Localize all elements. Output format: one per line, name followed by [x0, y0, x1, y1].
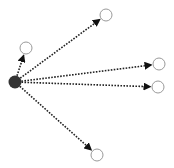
edge-source-to-t1	[17, 55, 24, 76]
source-node	[9, 76, 22, 89]
edges-group	[17, 19, 152, 150]
edge-source-to-t5	[20, 86, 92, 150]
target-node-t2	[100, 9, 112, 21]
star-diagram	[0, 0, 174, 168]
target-node-t3	[153, 58, 165, 70]
nodes-group	[9, 9, 166, 161]
edge-source-to-t4	[21, 82, 150, 87]
target-node-t4	[152, 81, 164, 93]
target-node-t5	[91, 149, 103, 161]
edge-source-to-t3	[21, 65, 151, 81]
target-node-t1	[20, 42, 32, 54]
